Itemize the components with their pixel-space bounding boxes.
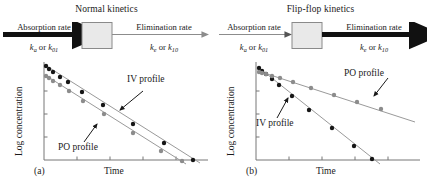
panel-a-absorption-or: or bbox=[37, 42, 48, 52]
panel-a-compartment-scheme: Absorption rate ka or k01 Elimination ra… bbox=[0, 22, 213, 56]
panel-b-scheme-title: Flip-flop kinetics bbox=[214, 4, 427, 14]
panel-a-elimination-rate-constant: ke or k10 bbox=[122, 42, 206, 53]
panel-b-y-axis-title: Log concentration bbox=[226, 87, 236, 156]
panel-a-plot: IV profile PO profile Log concentration … bbox=[0, 60, 213, 190]
panel-b-iv-annotation-arrow bbox=[277, 98, 288, 118]
panel-a-body-compartment-box bbox=[82, 23, 112, 49]
panel-b-elimination-rate-label: Elimination rate bbox=[332, 22, 416, 32]
panel-b-x-axis-title: Time bbox=[316, 166, 336, 176]
panel-b-iv-profile-label: IV profile bbox=[256, 118, 294, 128]
panel-b-elimination-rate-constant: ke or k10 bbox=[332, 42, 416, 53]
panel-a-po-annotation-arrow bbox=[84, 124, 97, 142]
panel-b-po-annotation-arrow bbox=[374, 78, 388, 96]
panel-a-x-axis-title: Time bbox=[104, 166, 124, 176]
panel-b-absorption-rate-label: Absorption rate bbox=[218, 22, 290, 32]
panel-b: Flip-flop kinetics Absorption rate ka or… bbox=[214, 0, 427, 190]
panel-a-iv-annotation-arrow bbox=[120, 91, 143, 110]
panel-b-series bbox=[257, 66, 415, 164]
panel-a-scheme-title: Normal kinetics bbox=[0, 4, 213, 14]
panel-a-k01-subscript: 01 bbox=[52, 46, 58, 53]
panel-b-plot: PO profile IV profile Log concentration … bbox=[214, 60, 427, 190]
panel-b-letter: (b) bbox=[246, 166, 257, 176]
panel-b-absorption-rate-constant: ka or k01 bbox=[218, 42, 290, 53]
panel-a-letter: (a) bbox=[34, 166, 45, 176]
panel-a-y-axis-title: Log concentration bbox=[14, 87, 24, 156]
figure-root: Normal kinetics Absorption rate ka or k0… bbox=[0, 0, 427, 190]
panel-b-iv-fit-line bbox=[258, 67, 380, 164]
panel-a-elimination-or: or bbox=[157, 42, 168, 52]
panel-a-elimination-rate-label: Elimination rate bbox=[122, 22, 206, 32]
panel-a-po-profile-label: PO profile bbox=[58, 142, 98, 152]
panel-b-k10-subscript: 10 bbox=[382, 46, 388, 53]
panel-a-absorption-rate-label: Absorption rate bbox=[8, 22, 80, 32]
panel-a: Normal kinetics Absorption rate ka or k0… bbox=[0, 0, 213, 190]
panel-b-k01-subscript: 01 bbox=[262, 46, 268, 53]
panel-b-po-profile-label: PO profile bbox=[344, 68, 384, 78]
panel-a-iv-profile-label: IV profile bbox=[127, 74, 165, 84]
panel-a-k10-subscript: 10 bbox=[172, 46, 178, 53]
panel-a-absorption-rate-constant: ka or k01 bbox=[8, 42, 80, 53]
panel-b-body-compartment-box bbox=[292, 23, 322, 49]
panel-b-compartment-scheme: Absorption rate ka or k01 Elimination ra… bbox=[214, 22, 427, 56]
panel-b-absorption-or: or bbox=[247, 42, 258, 52]
panel-b-elimination-or: or bbox=[367, 42, 378, 52]
